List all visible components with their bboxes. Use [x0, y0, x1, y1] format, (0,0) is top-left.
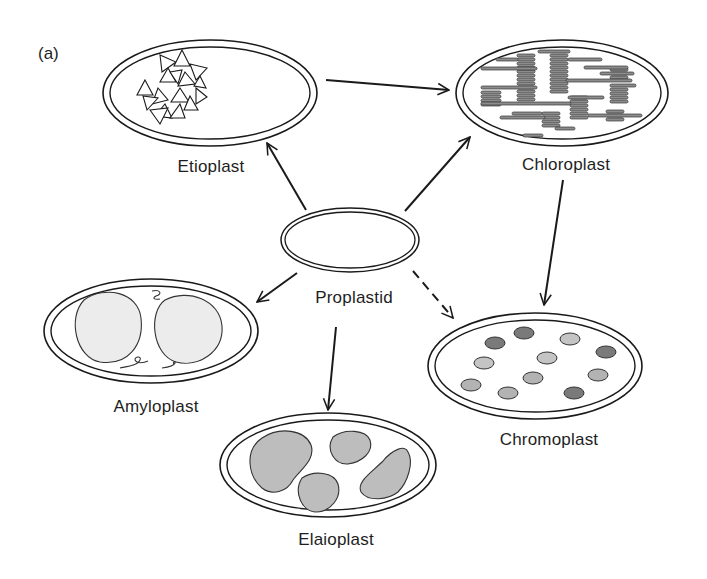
arrow-proplastid-to-etioplast — [267, 143, 306, 210]
arrow-etioplast-to-chloroplast — [326, 80, 449, 90]
amyloplast — [44, 279, 258, 383]
elaioplast — [220, 413, 436, 517]
arrow-chloroplast-to-chromoplast — [544, 180, 563, 305]
arrow-proplastid-to-elaioplast — [328, 327, 336, 410]
label-chromoplast: Chromoplast — [500, 430, 599, 450]
arrow-proplastid-to-chromoplast-dashed — [413, 271, 453, 318]
proplastid — [281, 208, 419, 272]
label-etioplast: Etioplast — [177, 157, 244, 177]
panel-label: (a) — [38, 44, 59, 64]
arrow-proplastid-to-chloroplast — [405, 137, 470, 211]
chromoplast — [428, 313, 642, 419]
label-proplastid: Proplastid — [315, 288, 393, 308]
chloroplast — [456, 40, 668, 146]
label-amyloplast: Amyloplast — [113, 397, 198, 417]
arrow-proplastid-to-amyloplast — [257, 273, 297, 302]
label-chloroplast: Chloroplast — [522, 155, 610, 175]
label-elaioplast: Elaioplast — [298, 530, 374, 550]
etioplast — [103, 40, 317, 146]
